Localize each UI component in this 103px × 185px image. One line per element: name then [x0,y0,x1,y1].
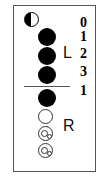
number-1-right: 1 [80,84,87,98]
half-filled-circle [24,12,39,27]
left-right-divider [24,86,70,87]
number-0: 0 [80,16,87,30]
number-3: 3 [80,65,87,79]
circle-with-small-circles-2 [38,143,53,158]
label-left: L [63,45,72,61]
filled-circle-r-1 [38,89,56,107]
small-circle [47,151,52,156]
filled-circle-l-1 [38,28,56,46]
filled-circle-l-3 [38,66,56,84]
label-right: R [63,118,75,134]
empty-circle [38,109,53,124]
circle-with-small-circles-1 [38,126,53,141]
number-1: 1 [80,30,87,44]
filled-circle-l-2 [38,47,56,65]
small-circle [47,134,52,139]
number-2: 2 [80,47,87,61]
